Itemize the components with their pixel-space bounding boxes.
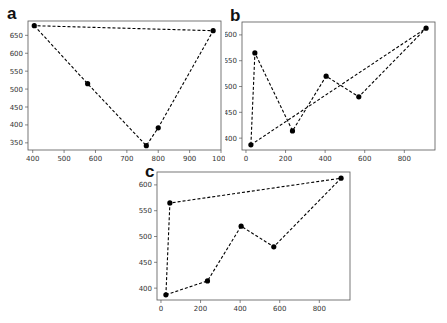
data-point-marker [338,176,343,181]
y-tick-label: 600 [139,181,152,189]
x-tick-label: 400 [26,155,39,163]
y-tick-label: 600 [225,31,237,39]
x-tick-label: 400 [233,305,246,313]
x-tick-label: 500 [57,155,70,163]
data-point-marker [32,23,37,28]
plot-frame [28,21,221,150]
data-point-marker [423,26,428,31]
y-tick-label: 400 [139,285,152,293]
chart-panel-b: 0200400600800400450500550600 [225,0,447,165]
x-tick-label: 600 [358,155,371,163]
y-tick-label: 500 [139,233,152,241]
y-tick-label: 450 [10,104,23,112]
chart-panel-a: 4005006007008009001000350400450500550600… [0,0,225,165]
data-point-marker [144,143,149,148]
y-tick-label: 550 [225,57,237,65]
data-point-marker [156,125,161,130]
y-tick-label: 450 [139,259,152,267]
data-point-marker [163,292,168,297]
y-axis: 350400450500550600650 [10,32,28,148]
data-point-marker [252,50,257,55]
x-tick-label: 600 [89,155,102,163]
y-tick-label: 500 [10,86,23,94]
data-point-marker [85,81,90,86]
y-tick-label: 400 [10,121,23,129]
y-tick-label: 550 [10,68,23,76]
x-tick-label: 200 [194,305,207,313]
y-tick-label: 600 [10,50,23,58]
y-tick-label: 400 [225,135,237,143]
data-point-marker [324,74,329,79]
data-point-marker [205,278,210,283]
x-tick-label: 0 [159,305,163,313]
y-tick-label: 550 [139,207,152,215]
y-tick-label: 450 [225,109,237,117]
data-point-marker [290,128,295,133]
y-tick-label: 500 [225,83,237,91]
y-axis: 400450500550600 [225,31,242,142]
data-point-marker [356,94,361,99]
data-point-marker [271,244,276,249]
chart-panel-c: 0200400600800400450500550600 [110,160,360,323]
x-tick-label: 600 [273,305,286,313]
data-point-marker [248,142,253,147]
x-axis: 0200400600800 [159,300,326,313]
data-point-marker [239,224,244,229]
data-point-marker [167,200,172,205]
x-tick-label: 800 [398,155,411,163]
y-axis: 400450500550600 [139,181,157,292]
data-point-marker [211,28,216,33]
y-tick-label: 650 [10,32,23,40]
x-tick-label: 800 [313,305,326,313]
y-tick-label: 350 [10,139,23,147]
